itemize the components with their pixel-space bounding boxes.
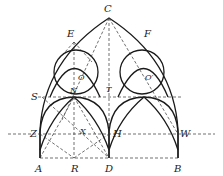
circle-o-prime [120,50,164,94]
label-b: B [173,163,181,174]
right-cusp-a [109,97,144,150]
label-c: C [104,3,112,14]
label-h: H [112,128,122,139]
label-w: W [180,128,191,139]
label-o: O [78,73,85,82]
label-s: S [31,91,38,102]
label-t: T [106,85,112,94]
label-r: R [70,163,79,174]
line-an [40,97,74,158]
label-z: Z [29,128,38,139]
line-ar [40,134,74,158]
tracery-diagram: C E F O O′ S N T Z X H W A R D B [0,0,223,176]
label-n: N [69,86,78,95]
label-f: F [143,28,152,39]
label-x: X [79,127,86,136]
line-rh [74,134,109,158]
label-d: D [104,163,113,174]
label-e: E [66,28,75,39]
label-a: A [34,163,42,174]
label-o-prime: O′ [145,73,154,82]
